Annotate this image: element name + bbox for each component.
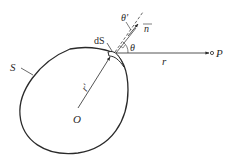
point-label: P: [215, 47, 223, 59]
element-leader-line: [107, 43, 112, 51]
angle-prime-leader-line: [126, 22, 131, 30]
surface-leader-line: [21, 68, 33, 75]
distance-label: r: [162, 55, 167, 67]
origin-label: O: [73, 113, 81, 125]
normal-dashed-line: [115, 12, 143, 52]
normal-label: n: [144, 23, 149, 34]
angle-prime-label: θ': [121, 12, 129, 23]
surface-label: S: [10, 61, 16, 73]
source-vector-label: r': [79, 81, 92, 92]
closed-surface-curve: [20, 48, 128, 154]
surface-element-label: dS: [94, 35, 105, 46]
surface-element-patch: [108, 51, 124, 67]
surface-field-diagram: S dS O r' r P n θ θ': [0, 0, 235, 165]
field-point: [210, 51, 213, 54]
source-vector-arrow: [78, 57, 110, 108]
angle-label: θ: [130, 42, 135, 53]
